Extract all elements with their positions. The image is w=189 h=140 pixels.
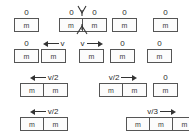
velocity-label-row: 00 [60, 7, 106, 18]
velocity-value-label: v/2 [48, 106, 59, 117]
velocity-label-row: 0 [24, 38, 28, 49]
mass-cell: m [21, 84, 44, 96]
mass-group: vm [41, 38, 66, 63]
mass-cell: m [154, 19, 177, 31]
velocity-label-row: v/2 [109, 72, 138, 83]
mass-cell: m [127, 118, 150, 130]
velocity-value-label: v/2 [109, 72, 120, 83]
velocity-label-row: v/2 [30, 72, 59, 83]
mass-group: 0m [14, 7, 39, 32]
mass-box-group: m [14, 18, 39, 32]
arrow-left-icon [30, 107, 46, 116]
mass-cell: m [148, 50, 171, 62]
mass-box-group: m [41, 49, 66, 63]
mass-group: 00mm [59, 7, 107, 32]
mass-cell: m [80, 50, 103, 62]
velocity-label-row: v/2 [30, 106, 59, 117]
mass-cell: m [15, 19, 38, 31]
arrow-right-icon [121, 73, 137, 82]
mass-cell: m [83, 19, 106, 31]
mass-box-group: mm [20, 83, 68, 97]
velocity-zero-label: 0 [122, 7, 126, 18]
mass-box-group: m [79, 49, 104, 63]
velocity-label-row: 0 [24, 7, 28, 18]
velocity-label-row: 0 [157, 38, 161, 49]
velocity-label-row: v/3 [147, 106, 176, 117]
mass-group: v/2mm [20, 72, 68, 97]
velocity-label-row: v [81, 38, 103, 49]
mass-group: v/3mmm [126, 106, 189, 131]
mass-cell: m [44, 84, 67, 96]
mass-box-group: mm [99, 83, 147, 97]
mass-cell: m [60, 19, 83, 31]
velocity-value-label: v [81, 38, 85, 49]
velocity-zero-label: 0 [92, 7, 96, 18]
velocity-label-row: 0 [163, 7, 167, 18]
velocity-zero-label: 0 [24, 38, 28, 49]
velocity-value-label: v [61, 38, 65, 49]
velocity-value-label: v/2 [48, 72, 59, 83]
mass-box-group: m [153, 18, 178, 32]
mass-box-group: m [112, 18, 137, 32]
mass-box-group: m [153, 83, 178, 97]
arrow-right-icon [87, 39, 103, 48]
mass-box-group: m [147, 49, 172, 63]
momentum-diagram: 0m00mm0m0m0mvmvm0m0mv/2mmv/2mm0mv/2mmv/3… [0, 0, 189, 140]
arrow-right-icon [160, 107, 176, 116]
mass-cell: m [173, 118, 189, 130]
mass-cell: m [42, 50, 65, 62]
mass-group: 0m [153, 7, 178, 32]
mass-box-group: mm [20, 117, 68, 131]
mass-cell: m [123, 84, 146, 96]
velocity-value-label: v/3 [147, 106, 158, 117]
mass-group: 0m [14, 38, 39, 63]
velocity-zero-label: 0 [69, 7, 73, 18]
velocity-label-row: 0 [120, 38, 124, 49]
mass-cell: m [15, 50, 38, 62]
mass-box-group: m [14, 49, 39, 63]
mass-cell: m [154, 84, 177, 96]
mass-cell: m [21, 118, 44, 130]
velocity-label-row: 0 [163, 72, 167, 83]
arrow-left-icon [30, 73, 46, 82]
velocity-zero-label: 0 [163, 7, 167, 18]
mass-box-group: m [110, 49, 135, 63]
velocity-zero-label: 0 [157, 38, 161, 49]
mass-group: 0m [147, 38, 172, 63]
mass-group: 0m [112, 7, 137, 32]
mass-box-group: mmm [126, 117, 189, 131]
mass-group: v/2mm [99, 72, 147, 97]
mass-group: 0m [110, 38, 135, 63]
mass-cell: m [150, 118, 173, 130]
velocity-label-row: v [43, 38, 65, 49]
velocity-label-row: 0 [122, 7, 126, 18]
mass-cell: m [111, 50, 134, 62]
mass-cell: m [100, 84, 123, 96]
velocity-zero-label: 0 [24, 7, 28, 18]
mass-group: 0m [153, 72, 178, 97]
mass-cell: m [113, 19, 136, 31]
velocity-zero-label: 0 [163, 72, 167, 83]
mass-group: v/2mm [20, 106, 68, 131]
mass-cell: m [44, 118, 67, 130]
mass-box-group: mm [59, 18, 107, 32]
velocity-zero-label: 0 [120, 38, 124, 49]
mass-group: vm [79, 38, 104, 63]
arrow-left-icon [43, 39, 59, 48]
